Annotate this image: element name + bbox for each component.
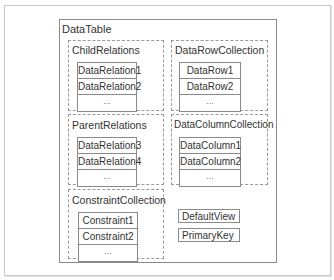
ellipsis-item: ... [78,95,136,111]
collection-table: DataRow1 DataRow2 ... [179,62,241,112]
parent-relations-group: ParentRelations DataRelation3 DataRelati… [68,114,164,185]
group-label: DataRowCollection [175,44,264,56]
primary-key-box: PrimaryKey [178,228,240,242]
ellipsis-item: ... [180,95,240,111]
datatable-label: DataTable [62,23,112,35]
collection-item: DataRelation2 [78,79,136,95]
collection-item: DataColumn2 [180,154,240,170]
collection-table: Constraint1 Constraint2 ... [78,212,138,262]
collection-item: DataColumn1 [180,138,240,154]
collection-item: DataRelation4 [78,154,136,170]
data-row-collection-group: DataRowCollection DataRow1 DataRow2 ... [171,40,268,111]
collection-item: DataRelation3 [78,138,136,154]
child-relations-group: ChildRelations DataRelation1 DataRelatio… [68,40,164,111]
collection-item: DataRow2 [180,79,240,95]
collection-item: Constraint1 [79,213,137,229]
group-label: ConstraintCollection [72,194,166,206]
collection-table: DataRelation3 DataRelation4 ... [77,137,137,187]
constraint-collection-group: ConstraintCollection Constraint1 Constra… [68,189,164,259]
collection-table: DataRelation1 DataRelation2 ... [77,62,137,112]
group-label: ParentRelations [72,119,147,131]
collection-item: DataRow1 [180,63,240,79]
collection-item: DataRelation1 [78,63,136,79]
group-label: ChildRelations [72,44,140,56]
group-label: DataColumnCollection [174,119,274,130]
ellipsis-item: ... [79,245,137,261]
data-column-collection-group: DataColumnCollection DataColumn1 DataCol… [171,114,268,185]
ellipsis-item: ... [180,170,240,186]
default-view-box: DefaultView [178,209,240,223]
collection-table: DataColumn1 DataColumn2 ... [179,137,241,187]
ellipsis-item: ... [78,170,136,186]
collection-item: Constraint2 [79,229,137,245]
